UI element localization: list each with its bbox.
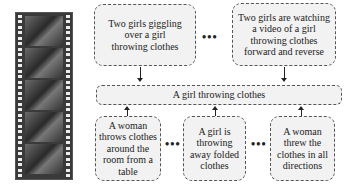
caption-text: Two girls giggling over a girl throwing …: [97, 18, 193, 53]
film-perforations-right: [66, 15, 70, 177]
caption-text: A girl is throwing away folded clothes: [186, 126, 243, 172]
bottom-caption-box-3: A woman threw the clothes in all directi…: [270, 116, 335, 181]
video-film-strip: [15, 12, 73, 180]
video-frame: [25, 16, 63, 46]
caption-text: Two girls are watching a video of a girl…: [235, 12, 333, 58]
ellipsis: •••: [202, 30, 218, 45]
video-frame: [25, 48, 63, 78]
center-caption-bar: A girl throwing clothes: [96, 85, 342, 105]
caption-text: A girl throwing clothes: [173, 89, 266, 101]
bottom-caption-box-1: A woman throws clothes around the room f…: [95, 116, 161, 181]
video-frame: [25, 80, 63, 110]
arrow-down-icon: [140, 67, 141, 79]
video-frame: [25, 144, 63, 174]
caption-text: A woman throws clothes around the room f…: [98, 120, 158, 178]
ellipsis: •••: [165, 137, 181, 152]
film-perforations-left: [18, 15, 22, 177]
bottom-caption-box-2: A girl is throwing away folded clothes: [183, 116, 246, 181]
caption-text: A woman threw the clothes in all directi…: [273, 126, 332, 172]
video-frame: [25, 112, 63, 142]
top-caption-box-1: Two girls giggling over a girl throwing …: [94, 4, 196, 66]
top-caption-box-2: Two girls are watching a video of a girl…: [232, 3, 336, 66]
ellipsis: •••: [251, 137, 267, 152]
arrow-down-icon: [284, 67, 285, 79]
